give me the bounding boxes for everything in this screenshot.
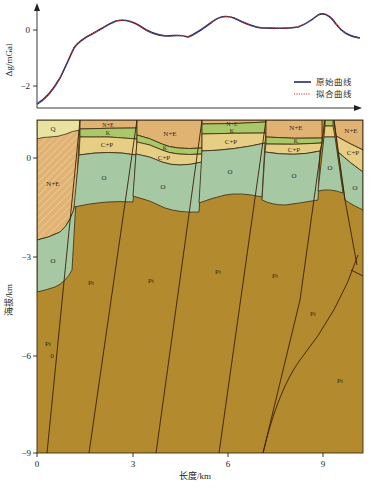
label-zero-block1: 0: [50, 352, 54, 360]
y-axis-arrow-icon: [34, 3, 40, 11]
label-k-block4: K: [230, 128, 235, 134]
section-x-axis: 0 3 6 9 长度/km: [35, 453, 326, 481]
y-tick-label-neg2: −2: [20, 81, 30, 91]
original-curve: [37, 14, 360, 104]
geologic-cross-section: Q N+E O Pt 0 N+E K C+P O Pt N+E K C+P O …: [3, 120, 363, 481]
label-pt-block4: Pt: [215, 268, 221, 276]
x-tick-label-6: 6: [226, 459, 231, 469]
label-k-block2: K: [106, 130, 111, 136]
label-pt-block5: Pt: [272, 272, 278, 280]
x-tick-label-3: 3: [131, 459, 136, 469]
y-tick-label-neg6km: −6: [21, 351, 31, 361]
label-ne-block1: N+E: [46, 180, 59, 188]
x-tick-label-0: 0: [35, 459, 40, 469]
label-pt-block3: Pt: [148, 277, 154, 285]
label-ne-block6: N+E: [344, 127, 357, 135]
figure-canvas: 0 −2 Δg/mGal 原始曲线 拟合曲线: [0, 0, 370, 495]
label-ne-block3: N+E: [163, 130, 176, 138]
label-ne-block2: N+E: [102, 122, 114, 128]
y-axis-title: Δg/mGal: [4, 43, 14, 76]
gravity-profile-chart: 0 −2 Δg/mGal 原始曲线 拟合曲线: [4, 3, 362, 111]
label-ne-block5: N+E: [289, 124, 302, 132]
x-axis-arrow-icon: [354, 105, 362, 111]
label-o-block1: O: [50, 257, 55, 265]
label-cp-block3: C+P: [158, 154, 171, 162]
legend: 原始曲线 拟合曲线: [294, 77, 352, 99]
label-cp-block4: C+P: [225, 138, 238, 146]
label-pt-middle-right: Pt: [310, 310, 316, 318]
x-tick-label-9: 9: [321, 459, 326, 469]
label-q: Q: [50, 125, 55, 133]
legend-label-original: 原始曲线: [316, 77, 352, 87]
label-k-block5: K: [294, 138, 299, 144]
label-o-block3: O: [160, 183, 165, 191]
y-tick-label-neg3km: −3: [21, 252, 31, 262]
label-o-block5: O: [291, 172, 296, 180]
label-cp-block5: C+P: [288, 146, 301, 154]
y-tick-label-neg9km: −9: [21, 448, 31, 458]
label-pt-block1: Pt: [45, 340, 51, 348]
label-cp-block6: C+P: [347, 149, 360, 157]
fitted-curve: [37, 14, 360, 104]
label-cp-block2: C+P: [101, 141, 114, 149]
label-pt-lower-right: Pt: [337, 377, 343, 385]
section-y-axis: 0 −3 −6 −9 海拔/km: [3, 153, 37, 458]
horst-k: [325, 120, 333, 126]
y-tick-label-0: 0: [26, 25, 31, 35]
label-k-block3: K: [163, 145, 168, 151]
label-o-block6: O: [352, 184, 357, 192]
y-tick-label-0km: 0: [27, 153, 32, 163]
label-ne-block4: N+E: [226, 121, 238, 127]
label-pt-block2: Pt: [88, 279, 94, 287]
horst-cp: [324, 126, 335, 137]
label-o-horst: O: [327, 164, 332, 172]
label-o-block4: O: [227, 168, 232, 176]
section-x-axis-title: 长度/km: [179, 470, 211, 481]
label-o-block2: O: [101, 174, 106, 182]
legend-label-fitted: 拟合曲线: [316, 89, 352, 99]
section-y-axis-title: 海拔/km: [3, 284, 14, 316]
